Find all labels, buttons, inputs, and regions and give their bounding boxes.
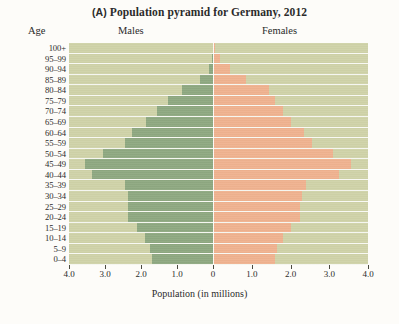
age-group-label: 20–24 (4, 212, 66, 223)
x-axis-tick-label: 4.0 (355, 269, 381, 279)
female-bar (213, 159, 351, 169)
female-bar (213, 128, 304, 138)
male-bar (92, 170, 213, 180)
age-group-label: 70–74 (4, 106, 66, 117)
age-group-label: 50–54 (4, 149, 66, 160)
age-group-label: 95–99 (4, 54, 66, 65)
female-bar (213, 244, 277, 254)
x-axis-title: Population (in millions) (0, 288, 399, 299)
female-bar (213, 223, 291, 233)
male-bar (168, 96, 213, 106)
x-axis-tick-label: 1.0 (239, 269, 265, 279)
male-bar (85, 159, 213, 169)
age-group-label: 10–14 (4, 233, 66, 244)
x-axis-tick-label: 3.0 (316, 269, 342, 279)
female-bar (213, 117, 291, 127)
female-bar (213, 149, 333, 159)
female-bar (213, 233, 283, 243)
age-group-label: 0–4 (4, 254, 66, 265)
age-axis-labels: 100+95–9990–9485–8980–8475–7970–7465–696… (3, 43, 66, 265)
female-bar (213, 170, 339, 180)
x-axis: 4.03.02.01.001.02.03.04.0 (69, 265, 368, 285)
female-bar (213, 85, 269, 95)
x-axis-tick-label: 0 (200, 269, 226, 279)
male-bar (145, 233, 213, 243)
male-bar (125, 180, 213, 190)
chart-plot-area (69, 43, 368, 265)
x-axis-tick-label: 2.0 (128, 269, 154, 279)
age-group-label: 40–44 (4, 170, 66, 181)
age-group-label: 55–59 (4, 138, 66, 149)
female-bar (213, 202, 300, 212)
female-bar (213, 75, 246, 85)
female-bar (213, 254, 275, 264)
males-column-header: Males (118, 25, 144, 36)
figure-title: (A) Population pyramid for Germany, 2012 (0, 6, 399, 18)
population-pyramid-figure: (A) Population pyramid for Germany, 2012… (0, 0, 399, 324)
figure-title-text: Population pyramid for Germany, 2012 (110, 6, 307, 18)
age-group-label: 80–84 (4, 85, 66, 96)
male-bar (152, 254, 213, 264)
male-bar (182, 85, 213, 95)
age-group-label: 100+ (4, 43, 66, 54)
zero-axis-line (213, 43, 214, 265)
age-column-header: Age (28, 25, 46, 36)
male-bar (146, 117, 213, 127)
age-group-label: 90–94 (4, 64, 66, 75)
female-bar (213, 191, 302, 201)
age-group-label: 60–64 (4, 128, 66, 139)
female-bar (213, 138, 312, 148)
age-group-label: 35–39 (4, 180, 66, 191)
age-group-label: 75–79 (4, 96, 66, 107)
age-group-label: 25–29 (4, 202, 66, 213)
male-bar (132, 128, 213, 138)
female-bar (213, 106, 283, 116)
male-bar (150, 244, 213, 254)
male-bar (125, 138, 213, 148)
male-bar (128, 191, 213, 201)
age-group-label: 65–69 (4, 117, 66, 128)
age-group-label: 45–49 (4, 159, 66, 170)
male-bar (137, 223, 213, 233)
x-axis-tick-label: 4.0 (56, 269, 82, 279)
age-group-label: 30–34 (4, 191, 66, 202)
female-bar (213, 212, 300, 222)
male-bar (200, 75, 213, 85)
panel-letter: (A) (92, 6, 107, 18)
male-bar (103, 149, 213, 159)
female-bar (213, 64, 230, 74)
x-axis-tick-label: 3.0 (92, 269, 118, 279)
age-group-label: 85–89 (4, 75, 66, 86)
age-group-label: 15–19 (4, 223, 66, 234)
x-axis-tick-label: 2.0 (278, 269, 304, 279)
male-bar (128, 212, 213, 222)
age-group-label: 5–9 (4, 244, 66, 255)
male-bar (128, 202, 213, 212)
male-bar (157, 106, 213, 116)
x-axis-tick-label: 1.0 (164, 269, 190, 279)
female-bar (213, 96, 275, 106)
females-column-header: Females (262, 25, 297, 36)
female-bar (213, 180, 306, 190)
